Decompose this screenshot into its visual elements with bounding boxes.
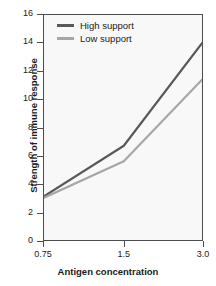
y-tick-label: 2 [0, 208, 33, 217]
legend-item: High support [57, 19, 134, 32]
y-tick-label: 14 [0, 37, 33, 46]
y-tick-label: 12 [0, 66, 33, 75]
immune-response-line-chart: Strength of immune response 024681012141… [0, 0, 216, 286]
line-high-support [44, 43, 202, 196]
y-tick-label: 0 [0, 236, 33, 245]
plot-area [43, 14, 203, 241]
x-tick-label: 3.0 [183, 250, 216, 259]
chart-legend: High supportLow support [57, 19, 134, 45]
y-tick-label: 4 [0, 179, 33, 188]
y-tick-label: 6 [0, 151, 33, 160]
x-axis-title: Antigen concentration [0, 266, 216, 277]
y-tick-label: 16 [0, 9, 33, 18]
x-tick-mark [203, 241, 204, 247]
legend-label: High support [80, 21, 134, 31]
series-lines [44, 15, 202, 240]
x-tick-mark [43, 241, 44, 247]
x-tick-label: 0.75 [23, 250, 63, 259]
legend-swatch-icon [57, 24, 74, 26]
legend-item: Low support [57, 32, 134, 45]
y-tick-label: 8 [0, 123, 33, 132]
legend-label: Low support [80, 34, 132, 44]
x-tick-mark [124, 241, 125, 247]
y-tick-label: 10 [0, 94, 33, 103]
x-tick-label: 1.5 [104, 250, 144, 259]
legend-swatch-icon [57, 37, 74, 39]
